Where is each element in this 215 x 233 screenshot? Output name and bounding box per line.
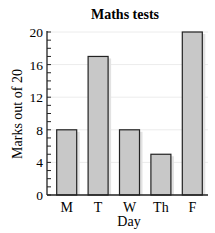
bar-W (120, 130, 140, 195)
x-tick-label: W (123, 200, 137, 215)
x-tick-label: Th (153, 200, 169, 215)
bar-chart: Maths tests 048121620 MTWThF Marks out o… (0, 0, 215, 233)
y-tick-label: 4 (36, 155, 43, 170)
y-axis: 048121620 (30, 25, 52, 203)
bar-T (88, 56, 108, 195)
y-tick-label: 20 (30, 25, 44, 40)
x-tick-label: M (60, 200, 73, 215)
x-axis: MTWThF (47, 195, 208, 215)
bars (57, 32, 206, 195)
y-tick-label: 8 (36, 123, 43, 138)
x-tick-label: T (94, 200, 103, 215)
chart-title: Maths tests (91, 7, 160, 22)
y-tick-label: 16 (30, 58, 44, 73)
y-tick-label: 0 (36, 188, 43, 203)
x-axis-label: Day (117, 214, 140, 229)
x-tick-label: F (188, 200, 196, 215)
y-axis-label: Marks out of 20 (10, 69, 25, 159)
bar-F (182, 32, 202, 195)
bar-M (57, 130, 77, 195)
bar-Th (151, 154, 171, 195)
y-tick-label: 12 (30, 90, 44, 105)
